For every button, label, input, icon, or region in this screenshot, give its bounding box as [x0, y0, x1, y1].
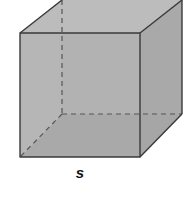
cube-front-face: [20, 33, 140, 157]
cube-diagram: [0, 0, 187, 197]
side-length-label: s: [76, 164, 84, 181]
